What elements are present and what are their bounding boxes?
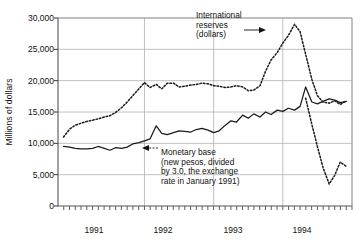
y-tick-label: 25,000	[14, 44, 54, 54]
y-tick-label: 10,000	[14, 138, 54, 148]
x-tick-label: 1994	[293, 225, 312, 235]
annotation-international-reserves: International reserves (dollars)	[196, 11, 242, 40]
x-tick-label: 1993	[224, 225, 243, 235]
y-tick-label: 5,000	[14, 170, 54, 180]
series-line-2	[306, 98, 347, 184]
chart-plot-area	[0, 0, 364, 249]
annotation-monetary-base: Monetary base (new pesos, divided by 3.0…	[161, 148, 239, 186]
y-tick-label: 15,000	[14, 107, 54, 117]
y-tick-label: 0	[14, 201, 54, 211]
y-tick-label: 20,000	[14, 76, 54, 86]
chart-figure: Millions of dollars 30,000 25,000 20,000…	[0, 0, 364, 249]
x-tick-label: 1991	[85, 225, 104, 235]
y-axis-tick-labels: 30,000 25,000 20,000 15,000 10,000 5,000…	[12, 0, 54, 249]
series-line-1	[64, 87, 347, 150]
x-axis-minor-ticks	[64, 206, 352, 210]
y-tick-label: 30,000	[14, 13, 54, 23]
x-tick-label: 1992	[154, 225, 173, 235]
